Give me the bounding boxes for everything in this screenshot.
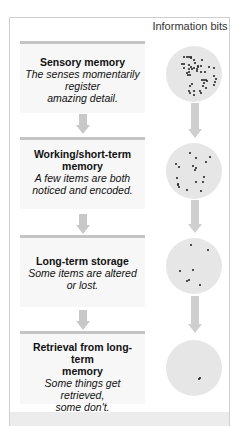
information-bit-dot <box>186 56 188 58</box>
stage-title-line: memory <box>24 365 141 377</box>
information-bit-dot <box>203 82 205 84</box>
stage-desc-line: A few items are both <box>24 172 141 184</box>
information-bit-dot <box>178 186 180 188</box>
information-bits-heading: Information bits <box>150 20 230 32</box>
information-bit-dot <box>190 244 192 246</box>
information-bit-dot <box>186 72 188 74</box>
information-bit-dot <box>193 67 195 69</box>
information-bit-dot <box>192 165 194 167</box>
information-bit-dot <box>215 78 217 80</box>
information-bit-dot <box>199 284 201 286</box>
stage-sensory-memory: Sensory memory The senses momentarily re… <box>20 41 145 113</box>
information-bit-dot <box>199 90 201 92</box>
information-bit-dot <box>193 94 195 96</box>
stage-working-memory: Working/short-term memory A few items ar… <box>20 137 145 209</box>
information-bit-dot <box>213 67 215 69</box>
information-bit-dot <box>189 152 191 154</box>
information-bit-dot <box>196 70 198 72</box>
stage-long-term-storage: Long-term storage Some items are altered… <box>20 235 145 307</box>
stage-desc-line: noticed and encoded. <box>24 184 141 196</box>
information-bit-dot <box>175 163 177 165</box>
information-bit-dot <box>194 62 196 64</box>
stage-desc-line: amazing detail. <box>24 92 141 104</box>
information-bit-dot <box>214 81 216 83</box>
stage-desc-line: register <box>24 80 141 92</box>
information-bit-dot <box>195 181 197 183</box>
information-bit-dot <box>186 189 188 191</box>
information-bit-dot <box>190 57 192 59</box>
information-bit-dot <box>205 161 207 163</box>
information-bit-dot <box>213 75 215 77</box>
stage-title: Sensory memory <box>24 56 141 68</box>
information-bit-dot <box>183 56 185 58</box>
information-bit-dot <box>188 279 190 281</box>
stage-desc-line: Some items are altered <box>24 267 141 279</box>
information-bit-dot <box>191 83 193 85</box>
information-bit-dot <box>209 156 211 158</box>
information-bit-dot <box>200 65 202 67</box>
information-bit-dot <box>200 92 202 94</box>
information-bit-dot <box>183 63 185 65</box>
information-bit-dot <box>202 181 204 183</box>
information-bit-dot <box>176 177 178 179</box>
information-bit-dot <box>195 157 197 159</box>
information-bit-dot <box>178 166 180 168</box>
information-bit-dot <box>189 85 191 87</box>
stage-title-line: memory <box>24 160 141 172</box>
information-bit-dot <box>188 71 190 73</box>
stage-title: Long-term storage <box>24 255 141 267</box>
information-bit-dot <box>208 66 210 68</box>
down-arrow-icon <box>76 214 90 234</box>
information-bit-dot <box>193 90 195 92</box>
stage-title-line: Retrieval from long-term <box>24 341 141 365</box>
stage-desc-line: or lost. <box>24 279 141 291</box>
down-arrow-icon <box>188 296 202 338</box>
information-bit-dot <box>200 190 202 192</box>
info-bits-circle-sensory <box>166 46 222 102</box>
stage-desc-line: The senses momentarily <box>24 68 141 80</box>
down-arrow-icon <box>76 114 90 134</box>
stage-retrieval: Retrieval from long-term memory Some thi… <box>20 331 145 404</box>
information-bit-dot <box>205 87 207 89</box>
down-arrow-icon <box>188 200 202 238</box>
information-bit-dot <box>203 176 205 178</box>
stage-desc-line: some don't. <box>24 401 141 413</box>
down-arrow-icon <box>188 103 202 143</box>
stage-desc-line: Some things get <box>24 377 141 389</box>
information-bit-dot <box>179 270 181 272</box>
information-bit-dot <box>201 59 203 61</box>
information-bit-dot <box>213 84 215 86</box>
information-bit-dot <box>183 67 185 69</box>
bottom-band <box>10 412 229 426</box>
information-bit-dot <box>202 85 204 87</box>
information-bit-dot <box>189 74 191 76</box>
information-bit-dot <box>193 59 195 61</box>
information-bit-dot <box>188 68 190 70</box>
information-bit-dot <box>177 184 179 186</box>
information-bit-dot <box>191 68 193 70</box>
down-arrow-icon <box>76 310 90 330</box>
information-bit-dot <box>204 71 206 73</box>
information-bit-dot <box>189 92 191 94</box>
stage-divider <box>20 41 145 44</box>
info-bits-circle-retrieval <box>166 340 222 396</box>
info-bits-circle-working <box>166 143 222 199</box>
information-bit-dot <box>198 378 200 380</box>
information-bit-dot <box>192 269 194 271</box>
stage-divider <box>20 331 145 334</box>
information-bit-dot <box>195 167 197 169</box>
information-bit-dot <box>200 71 202 73</box>
stage-title-line: Working/short-term <box>24 148 141 160</box>
stage-divider <box>20 235 145 238</box>
stage-desc-line: retrieved, <box>24 389 141 401</box>
stage-divider <box>20 137 145 140</box>
info-bits-circle-long-term <box>166 238 222 294</box>
information-bit-dot <box>207 249 209 251</box>
